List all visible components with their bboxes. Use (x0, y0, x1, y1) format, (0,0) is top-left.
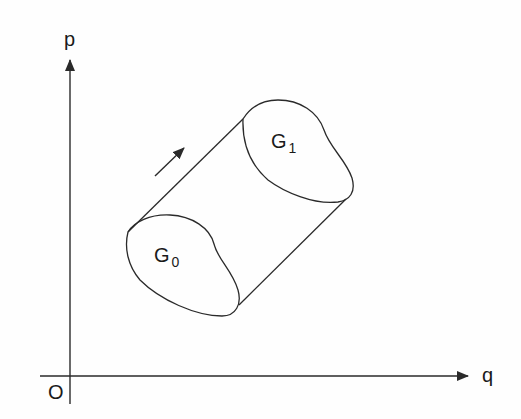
p-axis-label: p (64, 29, 75, 49)
origin-label: O (48, 382, 64, 402)
region-g0-name: G (154, 244, 170, 266)
tube-lower-edge (239, 199, 346, 305)
region-g1-name: G (271, 130, 287, 152)
region-g1-outline (243, 100, 353, 202)
tube-upper-edge (128, 119, 243, 232)
region-g0-outline (127, 215, 240, 316)
region-g0-label: G0 (154, 245, 179, 269)
flow-arrow-icon (155, 148, 184, 176)
region-g0-subscript: 0 (172, 254, 180, 270)
phase-space-diagram: p q O G0 G1 (0, 0, 521, 419)
q-axis-label: q (482, 365, 493, 385)
region-g1-label: G1 (271, 131, 296, 155)
diagram-graphics (0, 0, 521, 419)
region-g1-subscript: 1 (289, 140, 297, 156)
